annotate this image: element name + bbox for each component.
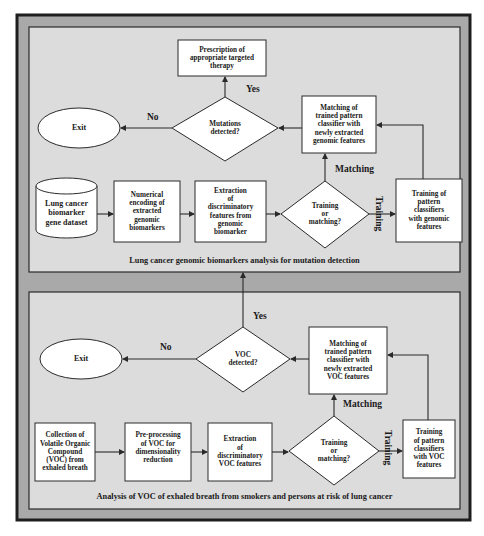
top-mutations-label: Mutations detected? [190,113,260,143]
top-dataset-label: Lung cancer biomarker gene dataset [36,195,97,231]
top-panel-caption: Lung cancer genomic biomarkers analysis … [29,256,460,265]
top-matching-label: Matching of trained pattern classifier w… [302,96,376,153]
bottom-matching-edge-label: Matching [343,399,382,409]
bottom-collection-label: Collection of Volatile Organic Compound … [35,423,95,481]
bottom-preprocessing-label: Pre-processing of VOC for dimensionality… [125,423,191,473]
top-matching-edge-label: Matching [335,164,374,174]
bottom-training-edge-label: Training [383,430,393,465]
bottom-train-match-label: Training or matching? [304,435,364,467]
bottom-voc-label: VOC detected? [213,345,273,373]
bottom-no-label: No [160,342,172,352]
top-training-edge-label: Training [374,196,384,231]
top-training-label: Training of pattern classifiers with gen… [396,179,462,242]
top-encoding-label: Numerical encoding of extracted genomic … [114,181,180,242]
bottom-panel-caption: Analysis of VOC of exhaled breath from s… [29,492,460,501]
bottom-training-label: Training of pattern classifiers with VOC… [403,420,455,478]
top-extraction-label: Extraction of discriminatory features fr… [195,181,266,242]
bottom-yes-label: Yes [253,311,267,321]
bottom-exit-label: Exit [40,349,122,369]
top-yes-label: Yes [246,84,260,94]
bottom-extraction-label: Extraction of discriminatory VOC feature… [208,423,272,481]
bottom-matching-label: Matching of trained pattern classifier w… [309,327,387,394]
top-prescription-label: Prescription of appropriate targeted the… [178,40,266,76]
top-exit-label: Exit [38,118,120,138]
top-no-label: No [147,112,159,122]
top-train-match-label: Training or matching? [295,198,355,230]
flowchart-diagram: Prescription of appropriate targeted the… [0,0,484,536]
